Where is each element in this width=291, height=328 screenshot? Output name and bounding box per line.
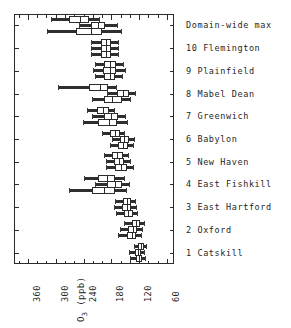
boxplot [106,164,134,171]
major-tick-top [167,15,168,20]
boxplot [95,73,124,80]
major-tick-bottom [167,259,168,264]
whisker-cap [121,29,122,34]
whisker-cap [146,244,147,249]
category-tick-left [15,184,19,185]
category-label: 10 Flemington [186,43,260,53]
whisker-cap [130,256,131,261]
box-iqr [89,84,108,91]
x-tick-label: 60 [171,291,181,302]
category-label: 7 Greenwich [186,111,249,121]
boxplot [91,51,119,58]
whisker-high [102,30,121,33]
category-tick-left [15,230,19,231]
x-tick-label: 300 [60,285,70,302]
x-axis-title: O3 (ppb) [76,277,89,322]
median-line [110,73,111,80]
whisker-low [118,234,127,237]
minor-tick-bottom [121,261,122,264]
whisker-cap [142,227,143,232]
whisker-cap [127,120,128,125]
minor-tick-top [148,15,149,18]
minor-tick-top [46,15,47,18]
whisker-low [95,183,107,186]
whisker-cap [106,165,107,170]
whisker-cap [110,143,111,148]
whisker-cap [141,233,142,238]
boxplot [83,119,128,126]
minor-tick-bottom [19,261,20,264]
whisker-cap [69,188,70,193]
category-label: Domain-wide max [186,20,272,30]
median-line [91,28,92,35]
whisker-low [91,41,101,44]
whisker-low [51,18,69,21]
whisker-cap [95,74,96,79]
whisker-low [93,69,104,72]
median-line [132,232,133,239]
boxplot [130,255,146,262]
whisker-low [79,24,91,27]
whisker-cap [114,205,115,210]
median-line [109,119,110,126]
category-label: 2 Oxford [186,225,232,235]
whisker-cap [134,137,135,142]
whisker-cap [92,97,93,102]
minor-tick-bottom [65,261,66,264]
x-tick-label: 360 [32,285,42,302]
minor-tick-bottom [46,261,47,264]
category-tick-left [15,207,19,208]
whisker-cap [130,97,131,102]
whisker-low [107,92,117,95]
chart-root: Domain-wide max10 Flemington9 Plainfield… [0,0,291,328]
whisker-cap [133,165,134,170]
whisker-cap [135,91,136,96]
whisker-low [116,212,124,215]
category-tick-left [15,25,19,26]
whisker-cap [144,221,145,226]
median-line [104,187,105,194]
whisker-low [92,98,104,101]
whisker-cap [58,85,59,90]
whisker-low [95,63,104,66]
minor-tick-top [102,15,103,18]
median-line [100,84,101,91]
whisker-cap [116,211,117,216]
median-line [112,96,113,103]
whisker-low [69,189,92,192]
boxplot [69,187,127,194]
whisker-cap [102,131,103,136]
whisker-cap [129,182,130,187]
boxplot [47,28,121,35]
category-tick-right [170,94,174,95]
major-tick-bottom [56,259,57,264]
major-tick-bottom [111,259,112,264]
category-tick-left [15,94,19,95]
box-iqr [76,28,102,35]
category-tick-left [15,162,19,163]
whisker-low [47,30,76,33]
whisker-low [92,115,104,118]
whisker-cap [51,17,52,22]
whisker-low [84,177,98,180]
category-tick-right [170,162,174,163]
whisker-cap [91,52,92,57]
minor-tick-top [158,15,159,18]
minor-tick-bottom [37,261,38,264]
x-tick-label: 180 [115,285,125,302]
whisker-cap [87,108,88,113]
category-label: 1 Catskill [186,248,243,258]
category-label: 3 East Hartford [186,202,272,212]
category-label: 5 New Haven [186,157,249,167]
x-tick-label: 120 [143,285,153,302]
category-tick-left [15,253,19,254]
minor-tick-bottom [102,261,103,264]
whisker-low [120,228,128,231]
median-line [106,51,107,58]
category-tick-left [15,48,19,49]
median-line [128,210,129,217]
whisker-cap [47,29,48,34]
whisker-cap [118,52,119,57]
category-label: 9 Plainfield [186,66,255,76]
whisker-cap [122,74,123,79]
